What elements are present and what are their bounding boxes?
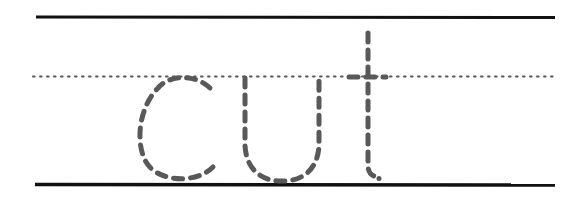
top-guide-line — [36, 17, 555, 18]
letter-c-trace — [140, 78, 213, 179]
letter-u-trace — [245, 78, 319, 181]
tracing-canvas — [0, 0, 585, 201]
handwriting-worksheet: cut — [0, 0, 585, 201]
letter-t-stem-trace — [368, 33, 374, 176]
letter-t-end-dot — [377, 176, 382, 181]
bottom-baseline — [35, 185, 555, 186]
